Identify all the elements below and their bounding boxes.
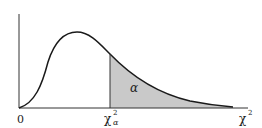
x-axis-label-superscript: 2 [248,109,252,117]
alpha-area-label: α [130,81,138,95]
origin-label: 0 [17,113,24,126]
critical-value-superscript: 2 [113,109,117,117]
critical-value-label: χ [104,112,112,126]
x-axis-label: χ [239,112,247,126]
chi-square-diagram: 0 χ 2 α χ 2 α [0,0,262,128]
critical-value-subscript: α [113,118,119,127]
shaded-tail-area [110,54,233,108]
